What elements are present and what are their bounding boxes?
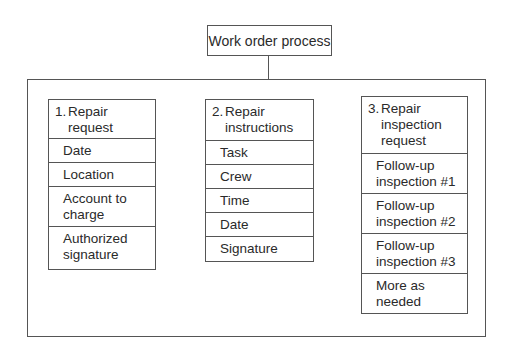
step-number: 2.	[212, 104, 225, 120]
field-cell: Account to charge	[49, 186, 155, 226]
title-connector-line	[268, 56, 269, 79]
column-repair-request: 1.Repair request Date Location Account t…	[48, 99, 156, 270]
field-label: Time	[220, 193, 309, 209]
field-label: needed	[376, 294, 463, 310]
heading-text: instructions	[212, 120, 309, 136]
field-label: Location	[63, 167, 151, 183]
field-cell: Crew	[206, 164, 313, 188]
field-label: Account to	[63, 191, 151, 207]
field-cell: Location	[49, 162, 155, 186]
field-cell: Time	[206, 188, 313, 212]
field-cell: More as needed	[362, 273, 467, 314]
column-heading: 3.Repair inspection request	[362, 97, 467, 153]
field-cell: Date	[206, 212, 313, 236]
field-label: Authorized	[63, 231, 151, 247]
heading-text: Repair	[68, 104, 108, 119]
heading-text: Repair	[381, 101, 421, 116]
field-label: Follow-up	[376, 198, 463, 214]
diagram-title-box: Work order process	[207, 25, 332, 56]
field-label: Signature	[220, 241, 309, 257]
heading-text: request	[368, 133, 463, 149]
column-repair-inspection-request: 3.Repair inspection request Follow-up in…	[361, 96, 468, 314]
field-label: charge	[63, 207, 151, 223]
field-label: Date	[63, 143, 151, 159]
field-label: Task	[220, 145, 309, 161]
field-label: Follow-up	[376, 158, 463, 174]
field-cell: Signature	[206, 236, 313, 261]
column-repair-instructions: 2.Repair instructions Task Crew Time Dat…	[205, 99, 314, 262]
field-label: inspection #1	[376, 174, 463, 190]
field-label: More as	[376, 278, 463, 294]
field-cell: Follow-up inspection #3	[362, 233, 467, 273]
column-heading: 2.Repair instructions	[206, 100, 313, 140]
field-cell: Follow-up inspection #2	[362, 193, 467, 233]
field-cell: Authorized signature	[49, 226, 155, 269]
field-label: inspection #3	[376, 254, 463, 270]
heading-text: request	[55, 120, 151, 136]
field-cell: Task	[206, 140, 313, 164]
field-label: inspection #2	[376, 214, 463, 230]
field-label: Crew	[220, 169, 309, 185]
step-number: 1.	[55, 104, 68, 120]
field-label: Date	[220, 217, 309, 233]
field-label: signature	[63, 247, 151, 263]
field-label: Follow-up	[376, 238, 463, 254]
heading-text: inspection	[368, 117, 463, 133]
column-heading: 1.Repair request	[49, 100, 155, 138]
heading-text: Repair	[225, 104, 265, 119]
diagram-title: Work order process	[209, 33, 331, 49]
field-cell: Date	[49, 138, 155, 162]
step-number: 3.	[368, 101, 381, 117]
field-cell: Follow-up inspection #1	[362, 153, 467, 193]
